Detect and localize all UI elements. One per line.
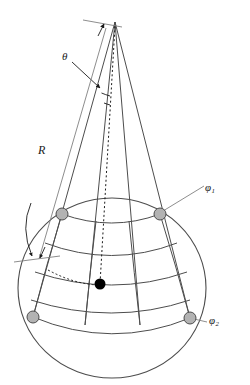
phi1-label: φ1 [205,182,215,195]
phi2-subscript: 2 [215,320,218,327]
phi2-label: φ2 [209,315,219,328]
node-top-right[interactable] [154,208,166,220]
longitude-line-4 [160,214,190,318]
cone-edge-right-outer [115,22,190,318]
node-bottom-left[interactable] [27,311,39,323]
node-bottom-right[interactable] [184,312,196,324]
cone-edge-right-inner [115,22,140,325]
radius-label: R [38,144,45,156]
cone-edges-group [33,22,190,325]
diagram-canvas: θ R φ1 φ2 [0,0,250,385]
phi1-leader-line [163,186,204,211]
sphere-outline-group [18,198,206,378]
source-point-group [95,279,106,290]
theta-leader-line [72,62,100,88]
phi1-subscript: 1 [211,187,214,194]
latitude-lines-group [31,214,190,334]
cone-edge-left-outer [33,22,115,317]
latitude-line-4 [31,300,190,313]
latitude-line-2 [45,243,177,256]
radius-tick-top [83,20,122,27]
theta-angle-group [72,62,110,105]
radius-tick-bottom [14,256,60,262]
latitude-line-5 [33,317,190,334]
radius-arrow-top [98,24,104,36]
sphere-outline [18,198,206,378]
source-point[interactable] [95,279,106,290]
sweep-arrow-group [26,203,32,256]
node-top-left[interactable] [56,208,68,220]
latitude-line-1 [62,214,160,223]
theta-angle-arc-outer [102,93,111,96]
sweep-arrow-arc [26,203,32,256]
latitude-line-3 [35,272,187,285]
grid-nodes-group [27,208,196,324]
theta-label: θ [62,51,67,62]
